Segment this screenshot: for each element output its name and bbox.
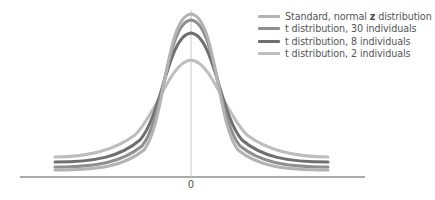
legend-item-t2: t distribution, 2 individuals xyxy=(258,48,435,61)
legend-swatch-t30 xyxy=(258,27,280,30)
legend-item-normal: Standard, normal z distribution xyxy=(258,10,435,23)
legend-label-t8: t distribution, 8 individuals xyxy=(285,36,410,47)
x-axis-zero-label: 0 xyxy=(186,179,196,190)
legend: Standard, normal z distribution t distri… xyxy=(258,10,435,60)
legend-item-t8: t distribution, 8 individuals xyxy=(258,35,435,48)
legend-label-normal: Standard, normal z distribution xyxy=(285,11,432,22)
legend-label-t30: t distribution, 30 individuals xyxy=(285,23,416,34)
legend-label-t2: t distribution, 2 individuals xyxy=(285,48,410,59)
legend-swatch-t8 xyxy=(258,40,280,43)
legend-swatch-normal xyxy=(258,15,280,18)
legend-swatch-t2 xyxy=(258,52,280,55)
legend-item-t30: t distribution, 30 individuals xyxy=(258,23,435,36)
